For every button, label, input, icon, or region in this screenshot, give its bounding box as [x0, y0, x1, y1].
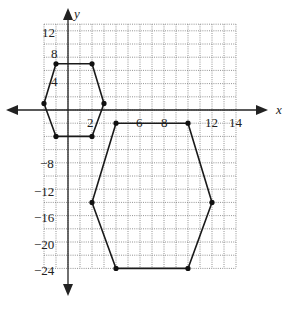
x-axis-left-arrow-icon — [6, 105, 18, 115]
vertex-point — [113, 121, 118, 126]
y-tick-label: −24 — [34, 263, 55, 278]
vertex-point — [113, 266, 118, 271]
vertex-point — [209, 200, 214, 205]
y-tick-label: −16 — [34, 210, 55, 225]
y-tick-label: 12 — [42, 25, 55, 40]
vertex-point — [89, 200, 94, 205]
vertex-point — [41, 101, 46, 106]
x-axis-right-arrow-icon — [256, 105, 268, 115]
axes: x y — [6, 6, 282, 296]
tick-labels: 2 6 8 12 14 12 8 4 −8 −12 −16 −20 −24 — [34, 25, 243, 278]
x-tick-label: 14 — [229, 115, 243, 130]
vertex-point — [89, 61, 94, 66]
vertex-point — [101, 101, 106, 106]
y-tick-label: −8 — [40, 156, 54, 171]
x-tick-label: 12 — [205, 115, 218, 130]
small-hexagon — [41, 61, 106, 139]
vertex-point — [89, 134, 94, 139]
coordinate-plane: x y 2 6 8 12 14 12 8 4 −8 −12 −16 −20 −2… — [0, 0, 289, 309]
x-axis-label: x — [275, 102, 282, 117]
y-axis-up-arrow-icon — [63, 8, 73, 20]
vertex-point — [185, 121, 190, 126]
y-tick-label: −12 — [34, 184, 54, 199]
y-tick-label: −20 — [34, 237, 54, 252]
grid — [44, 24, 236, 268]
small-hexagon-outline — [44, 64, 104, 137]
x-tick-label: 2 — [87, 115, 94, 130]
y-axis-down-arrow-icon — [63, 284, 73, 296]
vertex-point — [53, 61, 58, 66]
vertex-point — [185, 266, 190, 271]
y-axis-label: y — [72, 6, 80, 21]
vertex-point — [53, 134, 58, 139]
y-tick-label: 8 — [51, 46, 58, 61]
